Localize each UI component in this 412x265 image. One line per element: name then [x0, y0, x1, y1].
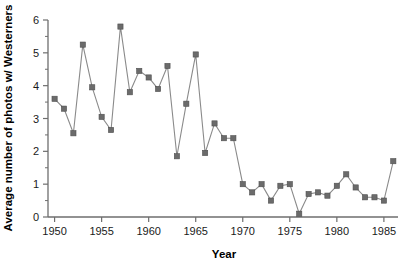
data-point-marker	[278, 183, 283, 188]
data-point-marker	[268, 198, 273, 203]
x-tick-label: 1950	[42, 225, 66, 237]
x-tick-label: 1965	[183, 225, 207, 237]
data-point-marker	[315, 190, 320, 195]
x-tick-label: 1985	[372, 225, 396, 237]
x-tick-label: 1955	[89, 225, 113, 237]
series-line-path	[55, 27, 394, 214]
data-point-marker	[108, 127, 113, 132]
data-point-marker	[155, 86, 160, 91]
data-point-marker	[71, 131, 76, 136]
data-point-marker	[90, 85, 95, 90]
data-point-marker	[391, 159, 396, 164]
y-axis: 0123456	[33, 14, 48, 223]
data-point-marker	[61, 106, 66, 111]
x-axis-title: Year	[212, 248, 237, 260]
data-point-marker	[212, 121, 217, 126]
data-point-marker	[259, 182, 264, 187]
y-tick-label: 1	[33, 178, 39, 190]
data-point-marker	[372, 195, 377, 200]
data-point-marker	[287, 182, 292, 187]
data-point-marker	[174, 154, 179, 159]
data-point-marker	[118, 24, 123, 29]
data-point-marker	[52, 96, 57, 101]
data-point-marker	[240, 182, 245, 187]
data-point-marker	[231, 136, 236, 141]
data-point-marker	[127, 90, 132, 95]
data-point-marker	[362, 195, 367, 200]
data-point-marker	[381, 198, 386, 203]
data-point-marker	[80, 42, 85, 47]
y-axis-title: Average number of photos w/ Westerners	[2, 5, 14, 232]
data-point-marker	[146, 75, 151, 80]
x-tick-label: 1970	[231, 225, 255, 237]
x-tick-label: 1975	[278, 225, 302, 237]
y-tick-label: 0	[33, 211, 39, 223]
data-point-marker	[353, 185, 358, 190]
data-point-marker	[221, 136, 226, 141]
data-series-line	[55, 27, 394, 214]
data-point-marker	[297, 211, 302, 216]
y-tick-label: 2	[33, 145, 39, 157]
x-axis: 19501955196019651970197519801985	[42, 217, 398, 237]
data-point-marker	[250, 190, 255, 195]
data-point-marker	[184, 101, 189, 106]
data-point-marker	[344, 172, 349, 177]
x-tick-label: 1960	[136, 225, 160, 237]
data-point-marker	[334, 183, 339, 188]
line-chart: 0123456 19501955196019651970197519801985…	[0, 0, 412, 265]
chart-figure: 0123456 19501955196019651970197519801985…	[0, 0, 412, 265]
data-point-marker	[203, 150, 208, 155]
y-tick-label: 4	[33, 80, 39, 92]
y-tick-label: 6	[33, 14, 39, 26]
data-point-marker	[325, 193, 330, 198]
x-tick-label: 1980	[325, 225, 349, 237]
y-tick-label: 5	[33, 47, 39, 59]
data-point-marker	[306, 191, 311, 196]
data-point-marker	[99, 114, 104, 119]
y-tick-label: 3	[33, 113, 39, 125]
data-point-marker	[193, 52, 198, 57]
data-point-marker	[137, 68, 142, 73]
data-point-marker	[165, 63, 170, 68]
